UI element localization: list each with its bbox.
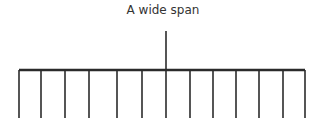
wide-span-diagram — [0, 0, 318, 123]
